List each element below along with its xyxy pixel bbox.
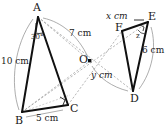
vertex-label-f: F <box>115 22 123 33</box>
edge-bc <box>22 105 68 112</box>
angle-label-a: 30° <box>31 34 43 41</box>
measure-label-od: y cm <box>91 71 113 80</box>
vertex-label-d: D <box>130 93 139 104</box>
vertex-label-b: B <box>15 115 23 126</box>
measure-label-ab: 10 cm <box>1 57 29 66</box>
right-angle-mark-e <box>140 25 144 31</box>
edge-fe <box>122 22 148 31</box>
vertex-label-c: C <box>70 103 78 114</box>
vertex-label-a: A <box>33 2 41 13</box>
measure-label-ed: 6 cm <box>142 46 164 55</box>
center-point-marker <box>88 59 91 62</box>
geometry-figure: A B C O D E F 10 cm 5 cm 7 cm y cm x cm … <box>0 0 167 134</box>
guide-b-to-c-upper <box>22 95 70 112</box>
inner-guides <box>22 95 70 112</box>
measure-label-fe: x cm <box>106 12 128 21</box>
edge-df <box>122 31 133 91</box>
edge-ca <box>38 17 68 105</box>
measure-label-ao: 7 cm <box>69 29 91 38</box>
angle-label-z: z <box>136 33 140 40</box>
ray-c-o-f <box>68 31 122 105</box>
vertex-label-e: E <box>148 11 156 22</box>
measure-label-bc: 5 cm <box>36 114 58 123</box>
figure-canvas <box>0 0 167 134</box>
vertex-label-o: O <box>79 54 88 65</box>
